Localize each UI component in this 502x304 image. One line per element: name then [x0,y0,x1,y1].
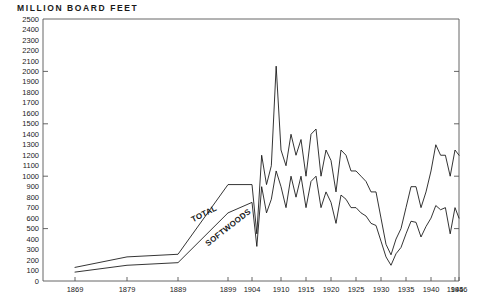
y-axis-tick-label: 2400 [22,25,39,34]
x-axis-tick-label: 1940 [423,285,440,294]
y-axis-tick-label: 1600 [22,109,39,118]
y-axis-tick-label: 2000 [22,67,39,76]
y-axis-tick-label: 2200 [22,46,39,55]
y-axis-tick-label: 100 [26,266,39,275]
y-axis-tick-label: 1700 [22,98,39,107]
x-axis-tick-label: 1920 [323,285,340,294]
y-axis-tick-label: 1200 [22,151,39,160]
y-axis-tick-label: 1400 [22,130,39,139]
y-axis-tick-label: 300 [26,245,39,254]
x-axis-tick-label: 1889 [170,285,187,294]
y-axis-tick-label: 1300 [22,140,39,149]
x-axis-tick-label: 1935 [398,285,415,294]
x-axis-tick-label: 1869 [67,285,84,294]
y-axis-tick-label: 200 [26,256,39,265]
series-inline-label: TOTAL [190,204,219,224]
x-axis-tick-label: 1925 [348,285,365,294]
x-axis-tick-label: 1930 [373,285,390,294]
chart-container: MILLION BOARD FEET 250024002300220021002… [0,0,502,304]
y-axis-tick-label: 2500 [22,15,39,24]
y-axis-tick-label: 1500 [22,119,39,128]
y-axis-tick-label: 1000 [22,172,39,181]
y-axis-tick-label: 900 [26,182,39,191]
y-axis-tick-label: 2100 [22,57,39,66]
line-chart-plot: 2500240023002200210020001900180017001600… [0,0,502,304]
y-axis-tick-label: 0 [35,277,39,286]
x-axis-tick-label: 1904 [244,285,261,294]
x-axis-tick-label: 1879 [119,285,136,294]
series-line-total [75,66,459,267]
x-axis-tick-label: 1946 [451,285,468,294]
y-axis-tick-label: 700 [26,203,39,212]
y-axis-tick-label: 400 [26,235,39,244]
y-axis-tick-label: 1900 [22,77,39,86]
y-axis-tick-label: 2300 [22,36,39,45]
plot-frame [43,19,459,281]
y-axis-tick-label: 500 [26,224,39,233]
y-axis-tick-label: 600 [26,214,39,223]
x-axis-tick-label: 1915 [298,285,315,294]
x-axis-tick-label: 1899 [220,285,237,294]
x-axis-tick-label: 1910 [273,285,290,294]
y-axis-tick-label: 1100 [23,161,39,170]
y-axis-tick-label: 800 [26,193,39,202]
y-axis-tick-label: 1800 [22,88,39,97]
